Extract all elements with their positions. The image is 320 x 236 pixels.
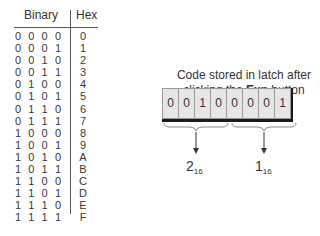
arrow-down-icon <box>261 148 267 154</box>
nibble-braces <box>0 0 320 236</box>
nibble-high-label: 216 <box>186 158 203 176</box>
nibble-low-label: 116 <box>255 158 272 176</box>
arrow-down-icon <box>193 148 199 154</box>
